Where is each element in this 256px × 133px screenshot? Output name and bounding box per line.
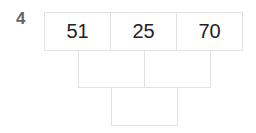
pyramid-cell-r3-c1[interactable] (111, 87, 178, 126)
pyramid-cell-r1-c1: 51 (44, 12, 111, 51)
pyramid-cell-r1-c2: 25 (110, 12, 177, 51)
pyramid-cell-r2-c2[interactable] (144, 50, 211, 88)
pyramid-cell-r2-c1[interactable] (78, 50, 145, 88)
pyramid-cell-r1-c3: 70 (176, 12, 243, 51)
question-number: 4 (16, 9, 25, 29)
